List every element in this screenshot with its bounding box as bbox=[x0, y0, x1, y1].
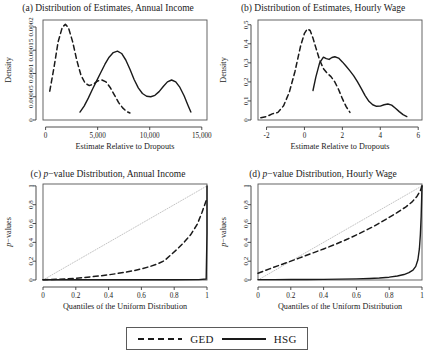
svg-text:p−values: p−values bbox=[219, 217, 228, 248]
svg-text:Quantiles of the Uniform Distr: Quantiles of the Uniform Distribution bbox=[278, 302, 402, 311]
svg-text:4: 4 bbox=[378, 132, 382, 140]
series-ged bbox=[261, 29, 350, 118]
panel-c-plot: 00.20.40.60.81Quantiles of the Uniform D… bbox=[0, 168, 216, 320]
svg-text:0.8: 0.8 bbox=[385, 292, 394, 300]
svg-text:Density: Density bbox=[219, 56, 228, 82]
svg-text:0: 0 bbox=[242, 278, 250, 282]
svg-text:1: 1 bbox=[27, 184, 35, 188]
svg-text:0.0002: 0.0002 bbox=[27, 17, 35, 37]
series-hsg bbox=[313, 57, 407, 117]
svg-text:6: 6 bbox=[416, 132, 420, 140]
legend-label-ged: GED bbox=[190, 333, 214, 345]
svg-text:1: 1 bbox=[205, 292, 209, 300]
figure-container: (a) Distribution of Estimates, Annual In… bbox=[0, 0, 431, 361]
panel-d-plot: 00.20.40.60.81Quantiles of the Uniform D… bbox=[215, 168, 431, 320]
series-hsg bbox=[80, 51, 191, 112]
svg-text:0.4: 0.4 bbox=[104, 292, 113, 300]
svg-text:0: 0 bbox=[27, 278, 35, 282]
svg-text:0.6: 0.6 bbox=[27, 219, 35, 228]
svg-text:0.4: 0.4 bbox=[27, 237, 35, 246]
svg-text:0.2: 0.2 bbox=[71, 292, 80, 300]
svg-text:Estimate Relative to Dropouts: Estimate Relative to Dropouts bbox=[291, 142, 390, 151]
panel-a-plot: 05,00010,00015,000Estimate Relative to D… bbox=[0, 2, 216, 168]
svg-text:1: 1 bbox=[420, 292, 424, 300]
series-reference bbox=[258, 186, 422, 280]
svg-text:0: 0 bbox=[256, 292, 260, 300]
svg-text:Estimate Relative to Dropouts: Estimate Relative to Dropouts bbox=[76, 142, 175, 151]
series-ged bbox=[50, 24, 130, 113]
svg-text:0.4: 0.4 bbox=[242, 237, 250, 246]
svg-text:2: 2 bbox=[341, 132, 345, 140]
legend: GED HSG bbox=[126, 327, 308, 350]
svg-text:0.0001: 0.0001 bbox=[27, 63, 35, 83]
svg-text:Density: Density bbox=[4, 56, 13, 82]
svg-text:0: 0 bbox=[242, 118, 250, 122]
svg-text:0: 0 bbox=[44, 132, 48, 140]
svg-text:0.5: 0.5 bbox=[242, 20, 250, 29]
svg-text:-2: -2 bbox=[264, 132, 270, 140]
svg-text:0: 0 bbox=[303, 132, 307, 140]
svg-text:0: 0 bbox=[41, 292, 45, 300]
svg-text:0.6: 0.6 bbox=[242, 219, 250, 228]
svg-text:0.00005: 0.00005 bbox=[27, 85, 35, 108]
svg-text:0.2: 0.2 bbox=[27, 256, 35, 265]
svg-text:0.1: 0.1 bbox=[242, 96, 250, 105]
svg-text:5,000: 5,000 bbox=[90, 132, 107, 140]
panel-d: (d) p−value Distribution, Hourly Wage 00… bbox=[215, 168, 431, 320]
svg-text:0.2: 0.2 bbox=[242, 77, 250, 86]
svg-text:0.8: 0.8 bbox=[242, 200, 250, 209]
svg-text:0.3: 0.3 bbox=[242, 58, 250, 67]
panel-c: (c) p−value Distribution, Annual Income … bbox=[0, 168, 216, 320]
svg-text:p−values: p−values bbox=[4, 217, 13, 248]
svg-text:0.8: 0.8 bbox=[170, 292, 179, 300]
legend-solid-line-icon bbox=[221, 334, 267, 344]
svg-text:0.00015: 0.00015 bbox=[27, 38, 35, 61]
svg-text:15,000: 15,000 bbox=[192, 132, 212, 140]
svg-text:0.4: 0.4 bbox=[242, 39, 250, 48]
svg-text:0.8: 0.8 bbox=[27, 200, 35, 209]
svg-text:Quantiles of the Uniform Distr: Quantiles of the Uniform Distribution bbox=[63, 302, 187, 311]
svg-text:10,000: 10,000 bbox=[140, 132, 160, 140]
panel-b: (b) Distribution of Estimates, Hourly Wa… bbox=[215, 2, 431, 168]
svg-text:0: 0 bbox=[27, 118, 35, 122]
panel-a: (a) Distribution of Estimates, Annual In… bbox=[0, 2, 216, 168]
svg-text:0.4: 0.4 bbox=[319, 292, 328, 300]
legend-label-hsg: HSG bbox=[274, 333, 297, 345]
panel-b-plot: -20246Estimate Relative to Dropouts00.10… bbox=[215, 2, 431, 168]
series-ged bbox=[43, 198, 207, 280]
svg-text:0.2: 0.2 bbox=[286, 292, 295, 300]
series-reference bbox=[43, 186, 207, 280]
svg-text:1: 1 bbox=[242, 184, 250, 188]
legend-dashed-line-icon bbox=[137, 334, 183, 344]
svg-text:0.2: 0.2 bbox=[242, 256, 250, 265]
series-ged bbox=[258, 186, 422, 273]
svg-text:0.6: 0.6 bbox=[137, 292, 146, 300]
svg-text:0.6: 0.6 bbox=[352, 292, 361, 300]
figure-footnote bbox=[4, 352, 424, 361]
